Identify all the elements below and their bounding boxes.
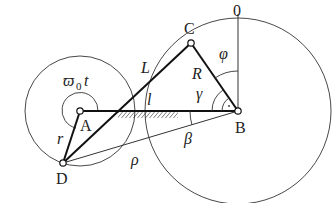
gamma-angle-arc-outer	[212, 90, 223, 111]
label-l: l	[147, 91, 152, 108]
linkage-diagram: 0 C φ L R γ l ϖ 0 t A r B β ρ D	[0, 0, 334, 203]
link-L	[63, 43, 191, 163]
label-omega-t: t	[84, 72, 89, 89]
label-L: L	[140, 59, 150, 76]
ground-hatch	[118, 112, 178, 118]
phi-angle-arc	[215, 71, 238, 78]
label-D: D	[56, 170, 68, 187]
label-zero: 0	[233, 2, 241, 19]
label-R: R	[191, 65, 202, 82]
label-beta: β	[183, 130, 192, 148]
right-angle-dot	[228, 105, 230, 107]
label-omega-sub: 0	[76, 80, 82, 92]
label-B: B	[235, 119, 246, 136]
joint-C	[188, 40, 194, 46]
gamma-angle-arc-inner	[222, 98, 229, 111]
label-rho: ρ	[130, 151, 139, 169]
label-r: r	[57, 130, 64, 147]
joint-A	[77, 108, 83, 114]
label-C: C	[184, 20, 195, 37]
beta-angle-arc	[190, 111, 192, 125]
label-phi: φ	[219, 45, 228, 63]
label-A: A	[80, 117, 92, 134]
label-omega: ϖ	[63, 72, 75, 89]
joint-B	[235, 108, 241, 114]
label-gamma: γ	[196, 85, 203, 103]
joint-D	[60, 160, 66, 166]
